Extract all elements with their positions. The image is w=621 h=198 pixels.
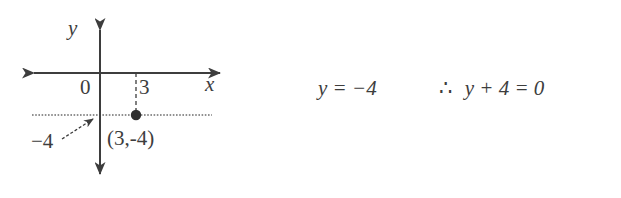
- point-coordinate-label: (3,-4): [107, 128, 154, 149]
- equation-standard-form: y + 4 = 0: [465, 76, 545, 101]
- intercept-pointer-arrow-icon: [62, 119, 93, 139]
- equations-block: y = −4 ∴ y + 4 = 0: [318, 76, 618, 110]
- plotted-point-dot-icon: [131, 110, 141, 120]
- origin-tick-label: 0: [80, 77, 91, 98]
- equation-primary: y = −4: [318, 76, 377, 101]
- therefore-symbol-icon: ∴: [439, 76, 452, 101]
- coordinate-plane-graphic: [0, 0, 260, 198]
- x-axis-label: x: [205, 74, 214, 95]
- y-axis-label: y: [68, 18, 77, 39]
- x-tick-label-3: 3: [139, 77, 150, 98]
- figure-root: y x 0 3 −4 (3,-4) y = −4 ∴ y + 4 = 0: [0, 0, 621, 198]
- y-intercept-label: −4: [31, 131, 53, 152]
